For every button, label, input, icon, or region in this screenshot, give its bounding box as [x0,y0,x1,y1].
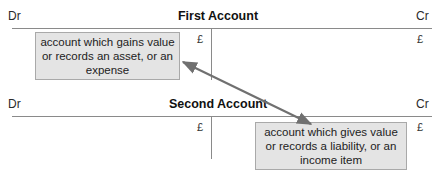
second-account-credit-note: account which gives value or records a l… [255,122,407,170]
first-account-debit-note: account which gains value or records an … [35,32,180,80]
second-account-debit-label: Dr [8,97,21,111]
note-line: income item [256,153,406,167]
first-account-vertical-rule [211,28,212,80]
first-account-title: First Account [178,9,258,23]
first-account-credit-currency: £ [417,33,423,45]
note-line: expense [36,63,179,77]
second-account-debit-currency: £ [197,121,203,133]
first-account-debit-label: Dr [8,9,21,23]
second-account-horizontal-rule [12,116,432,117]
note-line: or records an asset, or an [36,49,179,63]
first-account-horizontal-rule [12,28,432,29]
first-account-debit-currency: £ [197,33,203,45]
first-account-credit-label: Cr [416,9,429,23]
second-account-vertical-rule [211,116,212,159]
note-line: account which gives value [256,125,406,139]
second-account-credit-currency: £ [417,121,423,133]
second-account-title: Second Account [169,97,267,111]
note-line: account which gains value [36,35,179,49]
second-account-credit-label: Cr [416,97,429,111]
note-line: or records a liability, or an [256,139,406,153]
